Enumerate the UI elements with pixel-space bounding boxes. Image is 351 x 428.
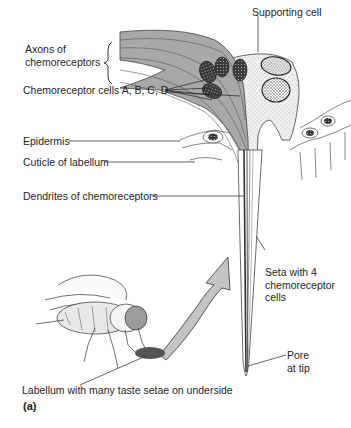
left-epidermis (180, 130, 232, 160)
label-supporting-cell: Supporting cell (252, 6, 321, 19)
label-cuticle: Cuticle of labellum (23, 156, 109, 169)
label-axons: Axons of chemoreceptors (25, 43, 100, 68)
label-chemoreceptor-cells: Chemoreceptor cells A, B, C, D (23, 84, 168, 97)
housefly (36, 275, 147, 368)
label-seta: Seta with 4 chemoreceptor cells (265, 266, 335, 304)
magnification-arrow (160, 257, 230, 360)
labellum-spot (135, 347, 165, 359)
panel-label: (a) (23, 400, 36, 412)
label-labellum: Labellum with many taste setae on unders… (22, 384, 233, 397)
seta (238, 150, 262, 376)
epidermis-tissue (290, 100, 351, 180)
label-pore: Pore at tip (287, 349, 310, 374)
label-dendrites: Dendrites of chemoreceptors (23, 190, 158, 203)
label-epidermis: Epidermis (23, 135, 70, 148)
